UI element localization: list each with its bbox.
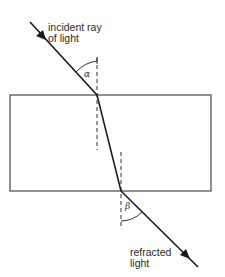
refracted-light-label: refracted light [130,247,171,269]
glass-block [10,95,211,191]
refracted-label-line2: light [130,258,171,269]
refraction-diagram [0,0,225,277]
angle-beta-arc [121,212,142,221]
incident-arrow-icon [36,30,46,40]
refracted-ray-inside [97,95,121,191]
angle-beta-label: β [125,201,130,211]
angle-alpha-label: α [84,69,90,79]
incident-ray-label: incident ray of light [48,22,102,44]
incident-label-line2: of light [48,33,102,44]
